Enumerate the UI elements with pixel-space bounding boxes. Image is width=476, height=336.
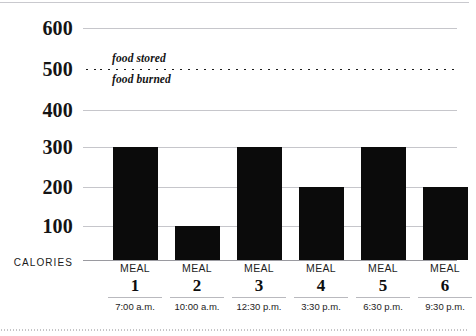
meal-word-6: MEAL xyxy=(414,262,476,275)
x-axis-labels: MEAL 1 7:00 a.m. MEAL 2 10:00 a.m. MEAL … xyxy=(97,262,457,324)
tick-stub-100 xyxy=(83,226,97,227)
x-axis-meal-6: MEAL 6 9:30 p.m. xyxy=(414,262,476,313)
x-axis-meal-2: MEAL 2 10:00 a.m. xyxy=(166,262,228,313)
meal-rule-4 xyxy=(294,297,348,298)
meal-word-1: MEAL xyxy=(104,262,166,275)
meal-time-4: 3:30 p.m. xyxy=(290,301,352,313)
meal-time-6: 9:30 p.m. xyxy=(414,301,476,313)
x-axis-meal-1: MEAL 1 7:00 a.m. xyxy=(104,262,166,313)
x-axis-meal-5: MEAL 5 6:30 p.m. xyxy=(352,262,414,313)
meal-number-1: 1 xyxy=(104,276,166,295)
meal-word-2: MEAL xyxy=(166,262,228,275)
meal-time-3: 12:30 p.m. xyxy=(228,301,290,313)
meal-number-5: 5 xyxy=(352,276,414,295)
bar-meal-2 xyxy=(175,226,220,260)
meal-number-4: 4 xyxy=(290,276,352,295)
meal-rule-6 xyxy=(418,297,472,298)
y-axis-label-500: 500 xyxy=(0,58,73,81)
meal-number-2: 2 xyxy=(166,276,228,295)
legend-food-stored: food stored xyxy=(112,52,166,64)
tick-stub-400 xyxy=(83,110,97,111)
y-axis-label-600: 600 xyxy=(0,17,73,40)
bar-meal-6 xyxy=(423,187,468,260)
meal-rule-2 xyxy=(170,297,224,298)
tick-stub-300 xyxy=(83,147,97,148)
y-axis-label-200: 200 xyxy=(0,176,73,199)
meal-number-6: 6 xyxy=(414,276,476,295)
meal-rule-3 xyxy=(232,297,286,298)
meal-word-4: MEAL xyxy=(290,262,352,275)
meal-number-3: 3 xyxy=(228,276,290,295)
bar-meal-3 xyxy=(237,147,282,260)
tick-stub-200 xyxy=(83,187,97,188)
y-axis-title-calories: CALORIES xyxy=(0,257,73,268)
bottom-dotted-divider xyxy=(0,329,469,331)
meal-rule-1 xyxy=(108,297,162,298)
meal-time-2: 10:00 a.m. xyxy=(166,301,228,313)
axis-baseline xyxy=(97,260,457,261)
meal-time-1: 7:00 a.m. xyxy=(104,301,166,313)
meal-rule-5 xyxy=(356,297,410,298)
tick-stub-baseline xyxy=(83,260,97,261)
meal-word-5: MEAL xyxy=(352,262,414,275)
bar-meal-4 xyxy=(299,187,344,260)
tick-stub-600 xyxy=(83,28,97,29)
bar-meal-5 xyxy=(361,147,406,260)
y-axis-label-300: 300 xyxy=(0,136,73,159)
bar-meal-1 xyxy=(113,147,158,260)
tick-stub-500 xyxy=(83,68,97,71)
x-axis-meal-3: MEAL 3 12:30 p.m. xyxy=(228,262,290,313)
legend-food-burned: food burned xyxy=(112,73,171,85)
meal-time-5: 6:30 p.m. xyxy=(352,301,414,313)
x-axis-meal-4: MEAL 4 3:30 p.m. xyxy=(290,262,352,313)
y-axis-label-400: 400 xyxy=(0,99,73,122)
y-axis-label-100: 100 xyxy=(0,215,73,238)
meal-word-3: MEAL xyxy=(228,262,290,275)
